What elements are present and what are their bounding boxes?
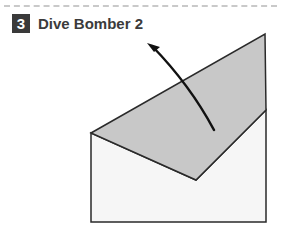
folding-diagram (0, 0, 281, 234)
